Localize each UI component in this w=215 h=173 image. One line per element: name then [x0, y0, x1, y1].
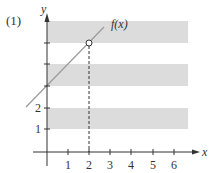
y-tick-label: 2: [35, 101, 41, 115]
x-tick-label: 4: [128, 158, 134, 172]
x-axis-label: x: [201, 145, 208, 159]
chart: 1 2 3 4 5 6 1 2 (1) y x f(x): [0, 0, 215, 173]
panel-label: (1): [6, 13, 21, 28]
x-tick-label: 2: [86, 158, 92, 172]
x-tick-label: 3: [107, 158, 113, 172]
x-tick-label: 5: [150, 158, 156, 172]
x-axis-arrow-icon: [192, 150, 200, 155]
function-label: f(x): [111, 17, 128, 31]
band-1-2: [47, 108, 188, 129]
x-tick-label: 6: [171, 158, 177, 172]
shaded-bands: [47, 21, 188, 129]
band-3-4: [47, 64, 188, 86]
x-tick-label: 1: [65, 158, 71, 172]
open-endpoint: [86, 40, 92, 46]
y-axis-label: y: [40, 2, 47, 16]
y-tick-label: 1: [35, 122, 41, 136]
